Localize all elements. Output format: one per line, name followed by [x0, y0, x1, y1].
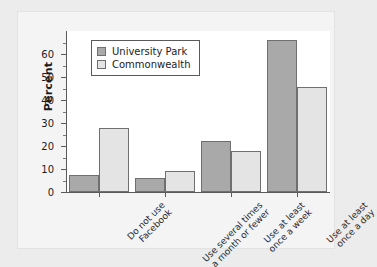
bar [69, 175, 99, 192]
bar [231, 151, 261, 192]
legend-swatch-commonwealth [97, 60, 106, 69]
y-axis-tick: 0 [61, 192, 66, 193]
bar [201, 141, 231, 192]
x-axis-category-label: Do not use Facebook [125, 200, 174, 249]
y-axis-line [66, 31, 67, 192]
bar [165, 171, 195, 192]
chart-panel: Percent 0102030405060 Do not use Faceboo… [17, 11, 335, 249]
legend-swatch-university-park [97, 47, 106, 56]
x-axis-tick [297, 192, 298, 197]
y-axis-minor-tick [63, 135, 66, 136]
y-axis-tick-label: 40 [41, 95, 54, 106]
bar [135, 178, 165, 192]
x-axis-tick [231, 192, 232, 197]
y-axis-minor-tick [63, 43, 66, 44]
bar [267, 40, 297, 192]
y-axis-tick: 40 [61, 100, 66, 101]
x-axis-tick [165, 192, 166, 197]
y-axis-minor-tick [63, 66, 66, 67]
plot-area: 0102030405060 Do not use FacebookUse sev… [66, 31, 330, 192]
y-axis-tick: 50 [61, 77, 66, 78]
x-axis-category-label: Use at least once a week [260, 200, 314, 254]
y-axis-tick: 20 [61, 146, 66, 147]
legend-label-commonwealth: Commonwealth [112, 59, 191, 70]
y-axis-tick-label: 30 [41, 118, 54, 129]
legend-item-university-park: University Park [97, 45, 191, 58]
x-axis-category-label: Use several times a month or fewer [201, 200, 272, 267]
y-axis-tick-label: 60 [41, 49, 54, 60]
y-axis-minor-tick [63, 112, 66, 113]
y-axis-tick-label: 20 [41, 141, 54, 152]
bar [297, 87, 327, 192]
y-axis-tick-label: 10 [41, 164, 54, 175]
legend-item-commonwealth: Commonwealth [97, 58, 191, 71]
y-axis-minor-tick [63, 181, 66, 182]
chart-legend: University Park Commonwealth [91, 40, 200, 76]
bar [99, 128, 129, 192]
x-axis-category-label: Use at least once a day [325, 200, 377, 252]
y-axis-minor-tick [63, 158, 66, 159]
x-axis-line [66, 192, 330, 193]
legend-label-university-park: University Park [112, 46, 187, 57]
y-axis-tick: 30 [61, 123, 66, 124]
y-axis-tick: 60 [61, 54, 66, 55]
x-axis-tick [99, 192, 100, 197]
y-axis-tick: 10 [61, 169, 66, 170]
y-axis-tick-label: 0 [48, 187, 54, 198]
y-axis-tick-label: 50 [41, 72, 54, 83]
y-axis-minor-tick [63, 89, 66, 90]
